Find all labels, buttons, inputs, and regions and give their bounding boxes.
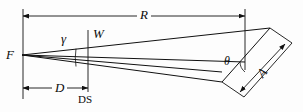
label-DS: DS — [78, 94, 92, 105]
inner-ray — [22, 55, 222, 72]
face-band — [222, 28, 292, 97]
diagram-canvas: F R D W γ θ A DS — [0, 0, 303, 112]
label-W: W — [93, 27, 104, 40]
label-D: D — [52, 81, 67, 94]
label-gamma: γ — [61, 32, 66, 45]
wedge-outline — [22, 28, 270, 82]
label-F: F — [6, 48, 14, 61]
theta-arc — [240, 62, 245, 72]
gamma-arc — [75, 49, 76, 67]
center-ray — [22, 55, 245, 62]
label-theta: θ — [224, 55, 230, 67]
diagram-svg — [0, 0, 303, 112]
label-R: R — [137, 8, 151, 21]
